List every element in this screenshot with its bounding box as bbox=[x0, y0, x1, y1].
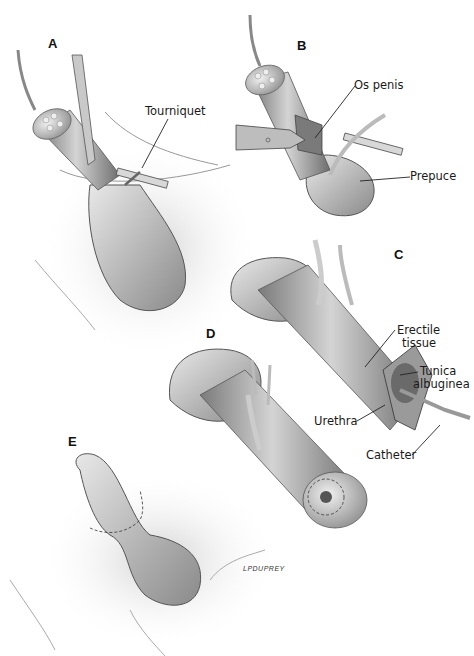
callout-urethra: Urethra bbox=[314, 414, 358, 428]
surgical-illustration: A B C D E Tourniquet Os penis Prepuce Er… bbox=[0, 0, 474, 656]
panel-a-retractor-line bbox=[18, 50, 35, 110]
panel-b bbox=[236, 15, 403, 216]
panel-c-tourniquet-strand bbox=[340, 245, 352, 305]
panel-d-urethral-opening bbox=[320, 491, 332, 503]
callout-tunica-line1: Tunica bbox=[419, 364, 456, 378]
leader-os-penis bbox=[315, 86, 355, 138]
callout-tunica-line2: albuginea bbox=[413, 377, 470, 391]
callout-tourniquet: Tourniquet bbox=[144, 104, 206, 118]
panel-d-tip bbox=[303, 472, 367, 528]
callout-os-penis: Os penis bbox=[354, 78, 404, 92]
panel-label-e: E bbox=[68, 434, 77, 449]
callout-erectile-tissue-line1: Erectile bbox=[397, 323, 440, 337]
panel-label-b: B bbox=[297, 38, 306, 53]
panel-e bbox=[10, 454, 280, 656]
panel-label-c: C bbox=[394, 247, 404, 262]
panel-d-tourniquet-strand-2 bbox=[268, 365, 270, 405]
panel-b-retractor-line bbox=[250, 15, 260, 66]
panel-label-d: D bbox=[206, 326, 215, 341]
callout-prepuce: Prepuce bbox=[410, 169, 456, 183]
panel-a bbox=[18, 50, 260, 360]
callout-catheter: Catheter bbox=[366, 448, 417, 462]
callout-erectile-tissue-line2: tissue bbox=[402, 336, 436, 350]
panel-b-bone-window bbox=[295, 115, 322, 155]
artist-signature: LPDUPREY bbox=[243, 565, 286, 572]
panel-b-tourniquet-band bbox=[343, 133, 403, 155]
leader-catheter bbox=[412, 425, 440, 455]
panel-label-a: A bbox=[48, 36, 58, 51]
